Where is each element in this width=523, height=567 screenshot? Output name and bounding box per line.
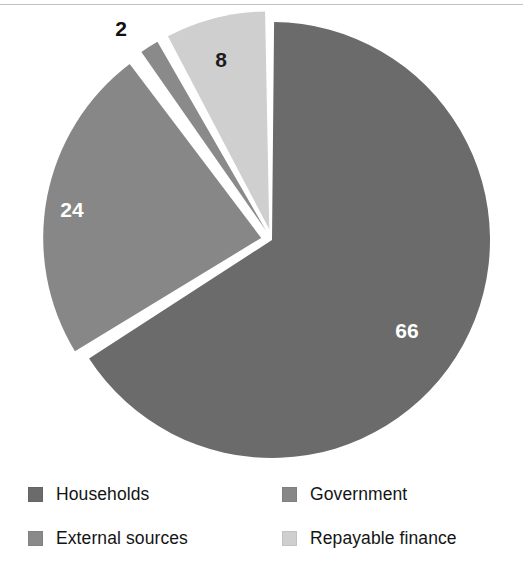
- legend-swatch-government: [282, 487, 297, 502]
- legend-column-right: Government Repayable finance: [282, 472, 522, 560]
- legend-column-left: Households External sources: [28, 472, 268, 560]
- pie-plot-area: 662428: [0, 0, 523, 470]
- pie-chart-figure: 662428 Households External sources Gover…: [0, 0, 523, 567]
- legend-swatch-repayable-finance: [282, 531, 297, 546]
- legend-swatch-households: [28, 487, 43, 502]
- pie-svg: [0, 0, 523, 470]
- legend-item[interactable]: Repayable finance: [282, 516, 522, 560]
- legend-label-repayable-finance: Repayable finance: [310, 528, 457, 549]
- legend-item[interactable]: Households: [28, 472, 268, 516]
- legend-item[interactable]: Government: [282, 472, 522, 516]
- legend-label-government: Government: [310, 484, 407, 505]
- legend-swatch-external-sources: [28, 531, 43, 546]
- legend-item[interactable]: External sources: [28, 516, 268, 560]
- legend-label-external-sources: External sources: [56, 528, 188, 549]
- legend-label-households: Households: [56, 484, 149, 505]
- chart-legend: Households External sources Government R…: [0, 472, 523, 567]
